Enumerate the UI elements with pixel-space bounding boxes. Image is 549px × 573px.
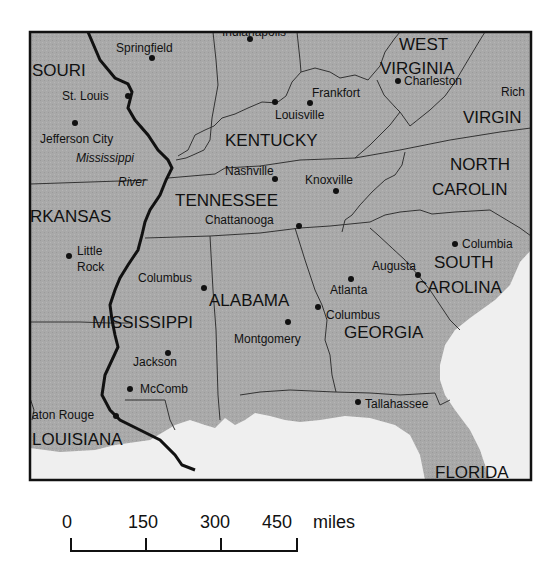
city-label-louisville: Louisville xyxy=(275,108,325,122)
state-label-missouri: SOURI xyxy=(32,61,86,80)
city-dot-baton-rouge xyxy=(113,413,119,419)
city-label-columbia: Columbia xyxy=(462,237,513,251)
state-label-louisiana: LOUISIANA xyxy=(32,430,123,449)
state-label-mississippi: MISSISSIPPI xyxy=(92,313,193,332)
city-label-springfield: Springfield xyxy=(116,41,173,55)
city-label-augusta: Augusta xyxy=(372,259,416,273)
scale-tick-label-450: 450 xyxy=(262,512,292,532)
map-body: SOURI WEST VIRGINIA VIRGIN KENTUCKY NORT… xyxy=(30,25,531,482)
city-dot-mccomb xyxy=(127,386,133,392)
city-dot-springfield xyxy=(149,55,155,61)
city-label-montgomery: Montgomery xyxy=(234,332,301,346)
scale-bar-line xyxy=(71,538,297,551)
city-label-little-rock-1: Little xyxy=(77,244,103,258)
state-label-arkansas: RKANSAS xyxy=(30,207,111,226)
city-label-little-rock-2: Rock xyxy=(77,260,105,274)
city-label-atlanta: Atlanta xyxy=(330,283,368,297)
state-label-kentucky: KENTUCKY xyxy=(225,131,318,150)
city-dot-atlanta xyxy=(348,276,354,282)
city-label-baton-rouge: aton Rouge xyxy=(32,408,94,422)
city-dot-jefferson-city xyxy=(72,120,78,126)
city-label-jefferson-city: Jefferson City xyxy=(40,132,113,146)
city-label-columbus-ms: Columbus xyxy=(138,271,192,285)
city-dot-columbus-ms xyxy=(201,285,207,291)
city-dot-charleston xyxy=(395,78,401,84)
city-label-tallahassee: Tallahassee xyxy=(365,397,429,411)
river-label-river: River xyxy=(118,175,147,189)
city-dot-montgomery xyxy=(285,319,291,325)
river-label-mississippi: Mississippi xyxy=(76,151,134,165)
state-label-west-virginia-1: WEST xyxy=(399,35,448,54)
state-label-alabama: ALABAMA xyxy=(209,291,290,310)
city-label-nashville: Nashville xyxy=(225,164,274,178)
state-label-tennessee: TENNESSEE xyxy=(175,191,278,210)
city-label-frankfort: Frankfort xyxy=(312,86,361,100)
state-label-virginia: VIRGIN xyxy=(463,108,522,127)
city-dot-chattanooga xyxy=(296,223,302,229)
city-dot-columbia xyxy=(452,241,458,247)
city-dot-frankfort xyxy=(307,100,313,106)
state-label-north-carolina-1: NORTH xyxy=(450,155,510,174)
city-dot-st-louis xyxy=(125,93,131,99)
city-dot-tallahassee xyxy=(355,399,361,405)
scale-tick-label-0: 0 xyxy=(62,512,72,532)
city-dot-knoxville xyxy=(333,188,339,194)
city-label-richmond: Rich xyxy=(501,85,525,99)
city-label-chattanooga: Chattanooga xyxy=(205,213,274,227)
city-dot-little-rock xyxy=(66,253,72,259)
city-label-columbus-ga: Columbus xyxy=(326,308,380,322)
southeast-us-map: SOURI WEST VIRGINIA VIRGIN KENTUCKY NORT… xyxy=(0,0,549,573)
state-label-north-carolina-2: CAROLIN xyxy=(432,180,508,199)
city-dot-columbus-ga xyxy=(315,304,321,310)
state-label-georgia: GEORGIA xyxy=(344,323,424,342)
city-label-jackson: Jackson xyxy=(133,355,177,369)
scale-unit-label: miles xyxy=(313,512,355,532)
city-label-knoxville: Knoxville xyxy=(305,173,353,187)
state-label-south-carolina-2: CAROLINA xyxy=(415,278,503,297)
city-label-charleston: Charleston xyxy=(404,74,462,88)
scale-tick-label-150: 150 xyxy=(128,512,158,532)
state-label-south-carolina-1: SOUTH xyxy=(434,253,494,272)
city-label-mccomb: McComb xyxy=(140,382,188,396)
city-dot-louisville xyxy=(272,99,278,105)
scale-tick-label-300: 300 xyxy=(200,512,230,532)
scale-bar: 0 150 300 450 miles xyxy=(62,512,355,551)
city-label-st-louis: St. Louis xyxy=(62,89,109,103)
